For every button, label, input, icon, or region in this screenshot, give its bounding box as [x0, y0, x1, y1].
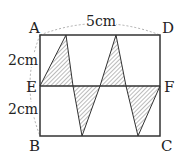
label-a: A [29, 21, 40, 36]
dimension-lower-left: 2cm [8, 102, 38, 116]
label-e: E [26, 80, 37, 95]
shaded-triangle-4 [126, 86, 160, 136]
dimension-top: 5cm [86, 14, 116, 28]
label-b: B [29, 139, 40, 154]
shaded-triangle-2 [73, 86, 100, 136]
dimension-upper-left: 2cm [8, 53, 38, 67]
shaded-triangle-3 [100, 35, 126, 86]
label-f: F [164, 80, 174, 95]
label-d: D [162, 21, 174, 36]
label-c: C [161, 139, 172, 154]
shaded-triangle-1 [40, 35, 73, 86]
